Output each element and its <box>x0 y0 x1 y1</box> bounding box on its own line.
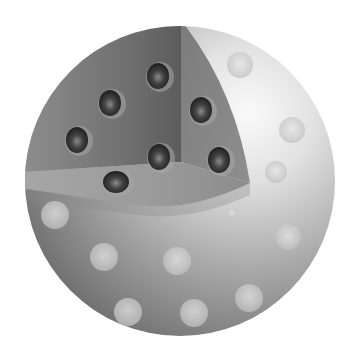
inner-particle <box>208 147 230 173</box>
surface-particle <box>227 208 237 218</box>
inner-particle <box>148 144 170 170</box>
surface-particle <box>279 117 305 143</box>
inner-particle <box>190 97 212 123</box>
inner-particle <box>99 90 121 116</box>
surface-particle <box>180 299 208 327</box>
surface-particle <box>163 247 191 275</box>
inner-particle <box>147 63 169 89</box>
surface-particle <box>41 201 69 229</box>
surface-particle <box>265 161 287 183</box>
surface-particle <box>227 52 253 78</box>
diagram-canvas <box>0 0 358 357</box>
inner-particle <box>66 127 88 153</box>
surface-particle <box>235 284 263 312</box>
surface-particle <box>114 298 142 326</box>
inner-particle <box>103 171 129 193</box>
surface-particle <box>275 224 301 250</box>
sphere-cutaway-diagram <box>0 0 358 357</box>
surface-particle <box>90 243 118 271</box>
